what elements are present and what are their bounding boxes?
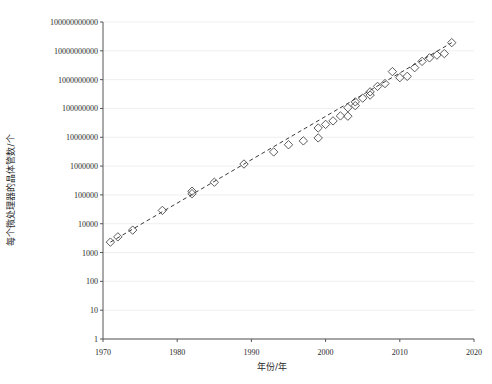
y-tick-label: 100000000000 [50, 18, 98, 27]
axis-lines [103, 22, 474, 339]
x-axis-tick-labels: 197019801990200020102020 [95, 339, 482, 357]
y-tick-label: 10000000000 [54, 47, 98, 56]
y-axis-title: 每个微处理器的晶体管数/个 [5, 134, 16, 245]
x-axis-title: 年份/年 [257, 361, 287, 372]
data-point-marker [114, 233, 122, 241]
y-tick-label: 100000000 [62, 104, 98, 113]
y-tick-label: 10 [90, 306, 98, 315]
data-point-marker [314, 124, 322, 132]
y-tick-label: 100000 [74, 191, 98, 200]
grid-lines [103, 22, 474, 339]
data-point-marker [329, 117, 337, 125]
data-point-marker [448, 38, 456, 46]
x-tick-label: 1970 [95, 348, 111, 357]
data-point-marker [188, 190, 196, 198]
x-tick-label: 2020 [466, 348, 482, 357]
y-axis-tick-labels: 1101001000100001000001000000100000001000… [50, 18, 103, 344]
data-point-marker [388, 67, 396, 75]
y-tick-label: 1000 [82, 249, 98, 258]
y-tick-label: 10000 [78, 220, 98, 229]
x-tick-label: 1990 [243, 348, 259, 357]
data-point-marker [314, 134, 322, 142]
y-tick-label: 1000000000 [58, 76, 98, 85]
x-tick-label: 1980 [169, 348, 185, 357]
data-point-marker [321, 120, 329, 128]
y-tick-label: 1000000 [70, 162, 98, 171]
trend-line [110, 43, 451, 242]
data-point-marker [210, 178, 218, 186]
y-tick-label: 1 [94, 335, 98, 344]
chart-container: 1101001000100001000001000000100000001000… [0, 0, 492, 384]
data-point-marker [299, 137, 307, 145]
data-point-marker [344, 104, 352, 112]
trend-line-dashed [110, 43, 451, 242]
x-tick-label: 2010 [392, 348, 408, 357]
data-point-marker [284, 141, 292, 149]
y-tick-label: 10000000 [66, 133, 98, 142]
x-tick-label: 2000 [318, 348, 334, 357]
y-tick-label: 100 [86, 277, 98, 286]
transistor-count-scatter-chart: 1101001000100001000001000000100000001000… [0, 0, 492, 384]
data-point-marker [106, 238, 114, 246]
